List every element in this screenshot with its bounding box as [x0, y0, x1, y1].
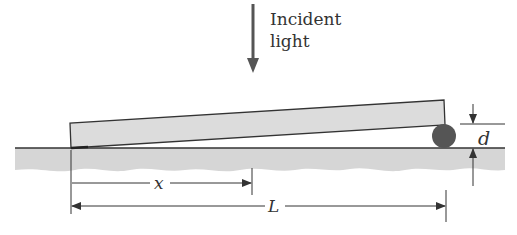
separation-label-x: x — [154, 173, 164, 193]
contact-edge — [71, 147, 88, 148]
spacer-sphere-icon — [432, 124, 456, 148]
incident-light-label-line2: light — [270, 31, 310, 51]
air-wedge-diagram: Incident light d x L — [0, 0, 517, 235]
incident-light-label-line1: Incident — [270, 9, 342, 29]
length-dimension — [72, 190, 446, 222]
thickness-label-d: d — [478, 127, 490, 149]
top-plate — [70, 100, 445, 148]
incident-light-arrow-icon — [247, 4, 259, 73]
bottom-plate — [15, 148, 505, 171]
length-label-L: L — [267, 196, 279, 216]
